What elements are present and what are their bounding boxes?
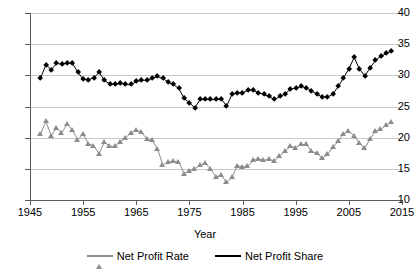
data-point (303, 141, 309, 146)
diamond-marker-icon (38, 75, 44, 81)
data-point (193, 106, 197, 110)
triangle-marker-icon (229, 174, 235, 179)
data-point (58, 130, 64, 135)
triangle-marker-icon (202, 160, 208, 165)
data-point (102, 78, 106, 82)
triangle-marker-icon (351, 133, 357, 138)
triangle-marker-icon (96, 252, 102, 269)
legend-item-net-profit-share: Net Profit Share (215, 250, 323, 262)
triangle-marker-icon (80, 131, 86, 136)
legend-item-net-profit-rate: Net Profit Rate (87, 250, 189, 262)
x-axis-tick-label: 1945 (10, 206, 50, 218)
data-point (330, 144, 336, 149)
data-point (341, 76, 345, 80)
data-point (304, 86, 308, 90)
data-point (187, 101, 191, 105)
data-point (64, 121, 70, 126)
triangle-marker-icon (122, 135, 128, 140)
triangle-marker-icon (90, 143, 96, 148)
data-point (80, 131, 86, 136)
data-point (37, 131, 43, 136)
data-point (129, 82, 133, 86)
data-point (271, 158, 277, 163)
triangle-marker-icon (361, 145, 367, 150)
data-point (171, 82, 175, 86)
data-point (351, 133, 357, 138)
y-axis-tick (25, 169, 30, 170)
diamond-marker-icon (218, 96, 224, 102)
y-axis-tick-label: 25 (386, 101, 410, 112)
x-axis-tick-label: 1975 (169, 206, 209, 218)
data-point (112, 143, 118, 148)
triangle-marker-icon (388, 119, 394, 124)
triangle-marker-icon (69, 127, 75, 132)
y-axis-tick (25, 13, 30, 14)
data-point (361, 145, 367, 150)
data-point (139, 78, 143, 82)
data-point (161, 76, 165, 80)
diamond-marker-icon (330, 91, 336, 97)
triangle-marker-icon (149, 137, 155, 142)
data-point (177, 86, 181, 90)
data-point (122, 135, 128, 140)
data-point (70, 61, 74, 65)
diamond-marker-icon (356, 66, 362, 72)
data-point (138, 129, 144, 134)
data-point (357, 67, 361, 71)
triangle-marker-icon (58, 130, 64, 135)
data-point (276, 153, 282, 158)
chart-legend: Net Profit Rate Net Profit Share (0, 250, 410, 262)
data-point (240, 91, 244, 95)
x-axis-tick (136, 200, 137, 205)
data-point (282, 148, 288, 153)
x-axis-tick (189, 200, 190, 205)
y-axis-line (30, 13, 31, 201)
x-axis-tick (243, 200, 244, 205)
data-point (218, 172, 224, 177)
data-point (373, 58, 377, 62)
triangle-marker-icon (324, 151, 330, 156)
diamond-marker-icon (335, 83, 341, 89)
data-point (49, 68, 53, 72)
y-axis-tick (25, 138, 30, 139)
data-point (384, 51, 388, 55)
y-axis-tick-label: 15 (386, 163, 410, 174)
triangle-marker-icon (112, 143, 118, 148)
diamond-marker-icon (362, 73, 368, 79)
triangle-marker-icon (377, 126, 383, 131)
y-axis-tick-label: 35 (386, 38, 410, 49)
diamond-marker-icon (69, 60, 75, 66)
diamond-marker-icon (351, 54, 357, 60)
y-axis-tick-label: 20 (386, 132, 410, 143)
data-point (389, 49, 393, 53)
diamond-marker-icon (340, 75, 346, 81)
diamond-marker-icon (91, 75, 97, 81)
x-axis-tick-label: 2015 (382, 206, 419, 218)
triangle-marker-icon (74, 137, 80, 142)
data-point (347, 67, 351, 71)
triangle-marker-icon (223, 179, 229, 184)
y-axis-tick (25, 107, 30, 108)
data-point (379, 54, 383, 58)
data-point (154, 146, 160, 151)
triangle-marker-icon (303, 141, 309, 146)
data-point (278, 94, 282, 98)
triangle-marker-icon (154, 146, 160, 151)
data-point (74, 137, 80, 142)
data-point (149, 137, 155, 142)
data-point (182, 96, 186, 100)
data-point (325, 95, 329, 99)
triangle-marker-icon (330, 144, 336, 149)
diamond-marker-icon (346, 66, 352, 72)
x-axis-tick-label: 1995 (276, 206, 316, 218)
triangle-marker-icon (276, 153, 282, 158)
data-point (256, 91, 260, 95)
x-axis-tick (402, 200, 403, 205)
triangle-marker-icon (43, 118, 49, 123)
data-point (48, 133, 54, 138)
triangle-marker-icon (335, 138, 341, 143)
data-point (145, 78, 149, 82)
data-point (219, 97, 223, 101)
triangle-marker-icon (117, 139, 123, 144)
